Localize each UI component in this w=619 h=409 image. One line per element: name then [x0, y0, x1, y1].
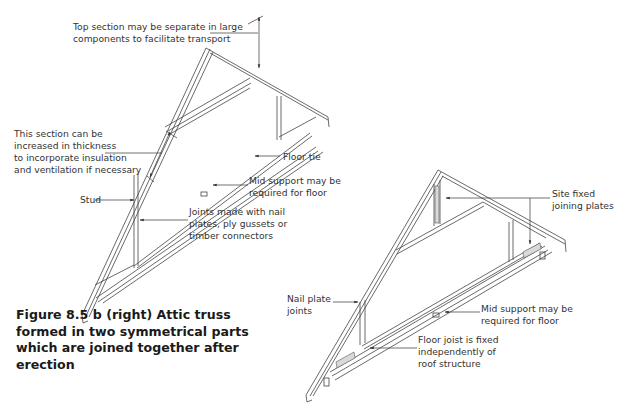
label-mid-support-right: Mid support may be required for floor	[481, 303, 573, 327]
label-stud: Stud	[80, 194, 101, 206]
figure-caption: Figure 8.5 b (right) Attic truss formed …	[16, 307, 276, 373]
label-top-section: Top section may be separate in large com…	[73, 21, 243, 45]
label-floor-joist: Floor joist is fixed independently of ro…	[418, 334, 499, 370]
label-section-thickness: This section can be increased in thickne…	[14, 128, 141, 176]
label-site-fixed-plates: Site fixed joining plates	[552, 188, 614, 212]
label-floor-tie: Floor tie	[283, 151, 321, 163]
label-mid-support-left: Mid support may be required for floor	[249, 175, 341, 199]
label-nail-plate-joints: Nail plate joints	[287, 293, 331, 317]
label-joints: Joints made with nail plates, ply gusset…	[189, 206, 287, 242]
